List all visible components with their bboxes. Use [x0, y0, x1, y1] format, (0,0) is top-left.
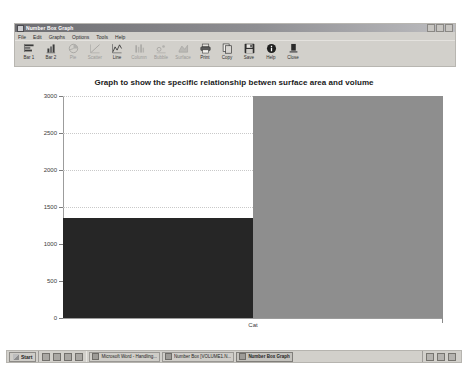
toolbar-label-line: Line — [113, 55, 122, 61]
window-controls — [427, 24, 453, 32]
toolbar-label-bar2: Bar 2 — [46, 55, 57, 61]
title-bar[interactable]: Number Box Graph — [15, 24, 455, 32]
toolbar-label-surface: Surface — [175, 55, 191, 61]
toolbar-label-pie: Pie — [70, 55, 77, 61]
taskbar: Start Microsoft Word - Handling... Numbe… — [6, 350, 462, 363]
task-label-number-box: Number Box [VOLUME1.N... — [174, 354, 231, 360]
toolbar-button-line[interactable]: Line — [106, 42, 128, 61]
toolbar-button-save[interactable]: Save — [238, 42, 260, 61]
toolbar-label-print: Print — [200, 55, 209, 61]
task-button-list: Microsoft Word - Handling... Number Box … — [89, 352, 420, 362]
toolbar-button-print[interactable]: Print — [194, 42, 216, 61]
y-axis-tick — [59, 281, 63, 282]
menu-bar: File Edit Graphs Options Tools Help — [15, 32, 455, 40]
number-box-icon — [165, 353, 172, 360]
toolbar-button-bar2[interactable]: Bar 2 — [40, 42, 62, 61]
x-axis-end-tick — [442, 318, 443, 323]
toolbar-button-pie[interactable]: Pie — [62, 42, 84, 61]
outlook-icon[interactable] — [64, 353, 72, 361]
chart-title: Graph to show the specific relationship … — [0, 78, 468, 87]
column-icon — [133, 42, 146, 55]
window-title: Number Box Graph — [26, 25, 73, 31]
surface-icon — [177, 42, 190, 55]
maximize-button[interactable] — [436, 24, 444, 32]
app-window-icon — [17, 25, 24, 32]
application-window: Number Box Graph File Edit Graphs Option… — [14, 23, 456, 67]
copy-icon — [221, 42, 234, 55]
y-axis-tick-label: 1500 — [44, 204, 57, 210]
y-axis-tick — [59, 133, 63, 134]
language-icon[interactable] — [448, 353, 456, 361]
number-box-graph-icon — [239, 353, 246, 360]
y-axis-tick-label: 2000 — [44, 167, 57, 173]
media-player-icon[interactable] — [75, 353, 83, 361]
task-button-number-box-graph[interactable]: Number Box Graph — [236, 352, 292, 362]
x-axis — [63, 318, 443, 319]
y-axis-tick-label: 1000 — [44, 241, 57, 247]
toolbar-button-bar1[interactable]: Bar 1 — [18, 42, 40, 61]
menu-item-tools[interactable]: Tools — [96, 34, 108, 40]
toolbar-button-bubble[interactable]: Bubble — [150, 42, 172, 61]
windows-flag-icon — [13, 354, 19, 360]
network-icon[interactable] — [437, 353, 445, 361]
task-label-word: Microsoft Word - Handling... — [101, 354, 157, 360]
system-tray — [422, 351, 459, 362]
close-button[interactable] — [445, 24, 453, 32]
bar1-icon — [23, 42, 36, 55]
toolbar-button-surface[interactable]: Surface — [172, 42, 194, 61]
toolbar-label-bar1: Bar 1 — [24, 55, 35, 61]
close-icon — [287, 42, 300, 55]
word-icon — [92, 353, 99, 360]
chart-canvas: Graph to show the specific relationship … — [0, 70, 468, 342]
y-axis-tick — [59, 207, 63, 208]
internet-explorer-icon[interactable] — [53, 353, 61, 361]
y-axis-tick-label: 0 — [54, 315, 57, 321]
task-button-word[interactable]: Microsoft Word - Handling... — [89, 352, 160, 362]
menu-item-help[interactable]: Help — [115, 34, 125, 40]
y-axis-tick — [59, 170, 63, 171]
toolbar-button-column[interactable]: Column — [128, 42, 150, 61]
start-button-label: Start — [21, 354, 32, 360]
toolbar-label-bubble: Bubble — [154, 55, 168, 61]
bar-2 — [253, 96, 443, 318]
toolbar-label-scatter: Scatter — [88, 55, 102, 61]
line-icon — [111, 42, 124, 55]
quick-launch-bar — [38, 351, 87, 362]
y-axis-tick — [59, 96, 63, 97]
y-axis-tick-label: 500 — [47, 278, 57, 284]
bar-1 — [63, 218, 253, 318]
menu-item-edit[interactable]: Edit — [33, 34, 42, 40]
help-icon — [265, 42, 278, 55]
menu-item-options[interactable]: Options — [72, 34, 89, 40]
toolbar: Bar 1 Bar 2 Pie — [15, 40, 455, 65]
toolbar-button-copy[interactable]: Copy — [216, 42, 238, 61]
menu-item-graphs[interactable]: Graphs — [49, 34, 65, 40]
toolbar-label-save: Save — [244, 55, 254, 61]
scatter-icon — [89, 42, 102, 55]
pie-icon — [67, 42, 80, 55]
screen: Number Box Graph File Edit Graphs Option… — [0, 0, 468, 380]
toolbar-button-scatter[interactable]: Scatter — [84, 42, 106, 61]
bubble-icon — [155, 42, 168, 55]
y-axis-tick-label: 2500 — [44, 130, 57, 136]
toolbar-label-column: Column — [131, 55, 147, 61]
print-icon — [199, 42, 212, 55]
bar2-icon — [45, 42, 58, 55]
y-axis-tick — [59, 244, 63, 245]
toolbar-label-help: Help — [266, 55, 275, 61]
plot-area: Cat 050010001500200025003000 — [63, 96, 443, 318]
toolbar-button-close[interactable]: Close — [282, 42, 304, 61]
menu-item-file[interactable]: File — [18, 34, 26, 40]
save-icon — [243, 42, 256, 55]
show-desktop-icon[interactable] — [42, 353, 50, 361]
toolbar-button-help[interactable]: Help — [260, 42, 282, 61]
task-button-number-box[interactable]: Number Box [VOLUME1.N... — [162, 352, 234, 362]
minimize-button[interactable] — [427, 24, 435, 32]
x-axis-label: Cat — [248, 322, 257, 328]
toolbar-label-copy: Copy — [222, 55, 233, 61]
y-axis-tick-label: 3000 — [44, 93, 57, 99]
y-axis-tick — [59, 318, 63, 319]
volume-icon[interactable] — [426, 353, 434, 361]
toolbar-label-close: Close — [287, 55, 299, 61]
start-button[interactable]: Start — [9, 352, 36, 362]
